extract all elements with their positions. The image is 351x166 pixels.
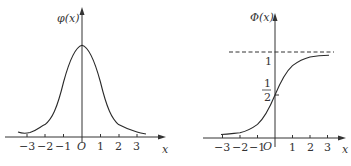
cdf-tick-label: −2	[232, 141, 248, 154]
cdf-tick-label: −1	[249, 141, 265, 154]
cdf-half-denominator: 2	[264, 91, 271, 104]
cdf-tick-label: 3	[324, 141, 331, 154]
pdf-x-arrow-icon	[158, 135, 166, 140]
pdf-tick-label: −2	[37, 140, 53, 153]
cdf-tick-label: 1	[289, 141, 296, 154]
cdf-half-numerator: 1	[264, 77, 271, 90]
pdf-y-label: φ(x)	[57, 12, 80, 25]
cdf-tick-label: −3	[214, 141, 230, 154]
cdf-x-arrow-icon	[338, 136, 346, 141]
cdf-one-label: 1	[265, 55, 272, 68]
pdf-tick-label: 1	[97, 140, 104, 153]
cdf-tick-label: 2	[307, 141, 314, 154]
pdf-tick-label: −1	[55, 140, 71, 153]
pdf-tick-label: 3	[133, 140, 140, 153]
cdf-y-label: Φ(x)	[250, 11, 274, 24]
cdf-x-label: x	[342, 143, 349, 156]
pdf-y-arrow-icon	[80, 7, 85, 15]
pdf-chart: φ(x) x O −3 −2 −1 1 2 3	[5, 7, 169, 156]
pdf-tick-label: 2	[115, 140, 122, 153]
pdf-tick-label: −3	[19, 140, 35, 153]
figure-canvas: φ(x) x O −3 −2 −1 1 2 3 Φ(x	[0, 0, 351, 166]
pdf-x-label: x	[162, 143, 169, 156]
cdf-chart: Φ(x) x O 1 1 2 −3 −2 −1 1 2 3	[203, 11, 349, 156]
pdf-origin-label: O	[77, 140, 86, 153]
